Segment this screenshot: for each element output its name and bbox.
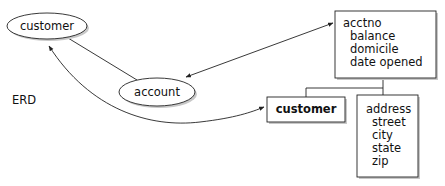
hierarchy-connector	[306, 79, 383, 97]
attr-domicile: domicile	[350, 42, 399, 56]
customer-entity: customer	[7, 13, 89, 41]
attr-acctno: acctno	[343, 16, 382, 30]
customer-box: customer	[267, 97, 347, 124]
erd-diagram: customer account ERD acctno balance domi…	[0, 0, 445, 186]
attr-date-opened: date opened	[350, 55, 423, 69]
erd-label: ERD	[12, 93, 36, 107]
attr-balance: balance	[350, 29, 395, 43]
customer-box-label: customer	[276, 102, 337, 116]
account-attributes-box: acctno balance domicile date opened	[335, 11, 438, 80]
customer-account-link	[68, 38, 137, 80]
attr-zip: zip	[372, 154, 389, 168]
attr-street: street	[372, 115, 406, 129]
account-entity-label: account	[134, 85, 180, 99]
attr-address: address	[366, 102, 411, 116]
account-entity: account	[119, 78, 197, 108]
attr-city: city	[372, 128, 393, 142]
account-acctno-arrow	[186, 23, 333, 77]
attr-state: state	[372, 141, 401, 155]
customer-entity-label: customer	[20, 19, 74, 33]
address-box: address street city state zip	[357, 95, 420, 179]
